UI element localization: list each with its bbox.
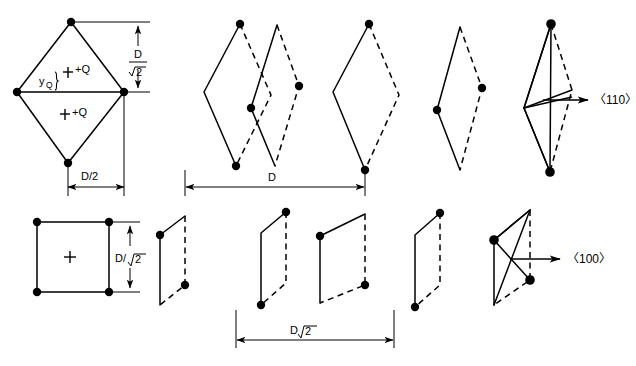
rhombus-dashed-edges (460, 27, 482, 170)
vertex-dot (33, 218, 41, 226)
bottom-parallelogram-3 (316, 214, 369, 303)
rhombus-solid-edges (204, 24, 240, 166)
top-row-dimension-d: D (185, 170, 365, 196)
crystal-lattice-diagram: +Q +Q y Q D 2 D/2 (0, 0, 636, 366)
center-charge-marker (64, 251, 76, 263)
top-left-reference-cell: +Q +Q y Q D 2 D/2 (13, 18, 150, 196)
bottom-parallelogram-overlay-100: 〈100〉 (489, 210, 611, 305)
vertex-dot (436, 209, 444, 217)
dimension-label-dsqrt2-radicand: 2 (305, 325, 311, 337)
y-q-brace (55, 72, 58, 90)
vertex-dot (295, 82, 303, 90)
vertex-dot (282, 208, 290, 216)
direction-label-110: 〈110〉 (594, 93, 636, 107)
vertex-dot (478, 84, 486, 92)
overlay-diagonal-a (494, 240, 530, 280)
parallelogram-solid-edges (320, 214, 365, 303)
vertex-dot (156, 231, 164, 239)
charge-marker-lower (60, 109, 70, 120)
vertex-dot (316, 232, 324, 240)
bottom-left-reference-cell: D/ 2 (33, 218, 146, 296)
overlay-diagonal-a (524, 24, 551, 108)
charge-label-upper: +Q (75, 63, 90, 75)
bottom-parallelogram-2 (257, 208, 290, 309)
charge-label-lower: +Q (72, 106, 87, 118)
vertex-dot (247, 104, 255, 112)
vertex-dot (13, 88, 21, 96)
vertex-dot (545, 167, 555, 177)
vertex-dot (489, 235, 499, 245)
parallelogram-dashed-edges (160, 216, 185, 305)
dimension-label-d-over-2: D/2 (81, 170, 98, 182)
vertex-dot (365, 20, 373, 28)
top-rhombus-overlay-110: 〈110〉 (524, 19, 636, 177)
bottom-row-dimension-dsqrt2: D 2 (236, 310, 394, 348)
top-rhombus-4 (433, 27, 486, 170)
dimension-label-sqrt2-square: 2 (135, 253, 141, 265)
rhombus-solid-edges (333, 24, 369, 170)
direction-label-100: 〈100〉 (567, 252, 611, 266)
vertex-dot (411, 303, 419, 311)
vertex-dot (433, 106, 441, 114)
vertex-dot (546, 19, 556, 29)
rhombus-solid-edges (524, 24, 551, 172)
overlay-diagonal-c (524, 108, 550, 172)
vertex-dot (33, 288, 41, 296)
dimension-label-sqrt2-den: 2 (136, 66, 142, 78)
parallelogram-solid-edges (415, 213, 440, 307)
parallelogram-dashed-edges (415, 213, 440, 307)
parallelogram-solid-edges (261, 212, 286, 305)
vertex-dot (236, 20, 244, 28)
vertex-dot (181, 281, 189, 289)
top-rhombus-1 (204, 20, 271, 170)
dimension-label-d-top: D (268, 171, 276, 183)
charge-marker-upper (63, 67, 73, 78)
parallelogram-solid-edges (160, 216, 185, 305)
dimension-label-d-over-sqrt2-square: D/ (115, 252, 127, 264)
parallelogram-dashed-edges (320, 214, 365, 303)
parallelogram-dashed-edges (261, 212, 286, 305)
top-rhombus-3 (333, 20, 399, 174)
figure-root: +Q +Q y Q D 2 D/2 (0, 0, 636, 366)
rhombus-solid-edges (251, 25, 277, 166)
vertex-dot (232, 162, 240, 170)
top-rhombus-2 (247, 25, 303, 166)
dimension-label-dsqrt2: D (290, 324, 298, 336)
vertex-dot (525, 275, 535, 285)
vertex-dot (257, 301, 265, 309)
rhombus-dashed-edges (275, 25, 299, 166)
vertex-dot (361, 166, 369, 174)
bottom-parallelogram-1 (156, 216, 189, 305)
bottom-parallelogram-4 (411, 209, 444, 311)
y-q-label: y (39, 75, 45, 87)
rhombus-dashed-edges (365, 24, 399, 170)
rhombus-solid-edges (437, 27, 460, 170)
dimension-label-d: D (134, 48, 142, 60)
y-q-subscript: Q (46, 80, 53, 90)
vertex-dot (361, 281, 369, 289)
